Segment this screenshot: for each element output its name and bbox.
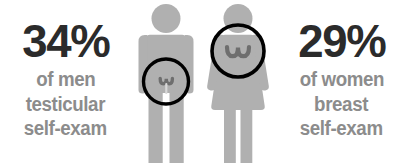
left-statistic-block: 34% of men testicular self-exam <box>0 0 131 163</box>
male-pictogram <box>139 4 194 163</box>
female-pictogram <box>207 4 269 163</box>
right-percent-value: 29% <box>298 17 385 64</box>
left-caption-line-1: of men <box>36 70 95 90</box>
left-percent-value: 34% <box>22 17 109 64</box>
pictogram-group <box>128 0 280 163</box>
left-caption-line-2: testicular <box>26 95 105 115</box>
right-caption-line-2: breast <box>315 95 369 115</box>
female-left-leg <box>224 104 236 163</box>
right-caption-line-1: of women <box>299 70 383 90</box>
left-caption-line-3: self-exam <box>24 119 107 139</box>
right-caption-line-3: self-exam <box>300 119 383 139</box>
male-head <box>152 4 181 33</box>
right-statistic-block: 29% of women breast self-exam <box>276 0 407 163</box>
female-right-leg <box>241 104 253 163</box>
infographic-canvas: 34% of men testicular self-exam <box>0 0 407 163</box>
